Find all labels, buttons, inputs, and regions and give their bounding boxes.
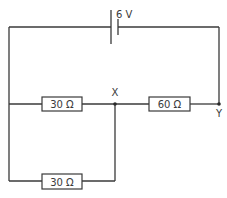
node-x-label: X (112, 87, 119, 98)
resistor-r3-label: 30 Ω (50, 177, 74, 188)
node-y-dot (217, 102, 221, 106)
node-x-dot (113, 102, 117, 106)
resistor-r2: 60 Ω (149, 97, 190, 111)
resistor-r2-label: 60 Ω (158, 99, 182, 110)
circuit-diagram: 6 V 30 Ω 60 Ω X Y 30 Ω (0, 0, 227, 198)
resistor-r1: 30 Ω (42, 97, 82, 111)
node-y-label: Y (215, 108, 223, 119)
resistor-r3: 30 Ω (42, 174, 82, 189)
resistor-r1-label: 30 Ω (50, 99, 74, 110)
battery-label: 6 V (116, 9, 133, 20)
